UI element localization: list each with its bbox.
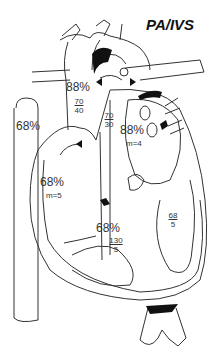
pda-pressure-systolic: 70	[102, 111, 116, 120]
svc-saturation: 68%	[16, 120, 40, 132]
ductus-arteriosus	[92, 48, 112, 74]
arrow-head-icon	[76, 140, 82, 148]
rv-pressure-systolic: 130	[108, 236, 124, 245]
aorta-saturation: 88%	[66, 81, 90, 93]
heart-diagram	[0, 0, 222, 360]
la-mean-pressure: m=4	[126, 139, 142, 148]
lv-pressure-diastolic: 5	[167, 220, 179, 229]
ra-mean-pressure: m=5	[46, 191, 62, 200]
arrow-head-left-icon	[96, 78, 102, 86]
rv-pressure-diastolic: 5	[108, 245, 124, 254]
diagram-title: PA/IVS	[146, 16, 194, 33]
pda-pressure-diastolic: 30	[102, 120, 116, 129]
lv-pressure-systolic: 68	[167, 211, 179, 220]
rv-saturation: 68%	[96, 222, 120, 234]
la-saturation: 88%	[120, 124, 144, 136]
aorta-pressure-diastolic: 40	[72, 106, 86, 115]
arrow-head-right-icon	[130, 78, 136, 86]
aorta-pressure-systolic: 70	[72, 97, 86, 106]
ivc-vessel	[140, 308, 186, 346]
ra-saturation: 68%	[40, 176, 64, 188]
